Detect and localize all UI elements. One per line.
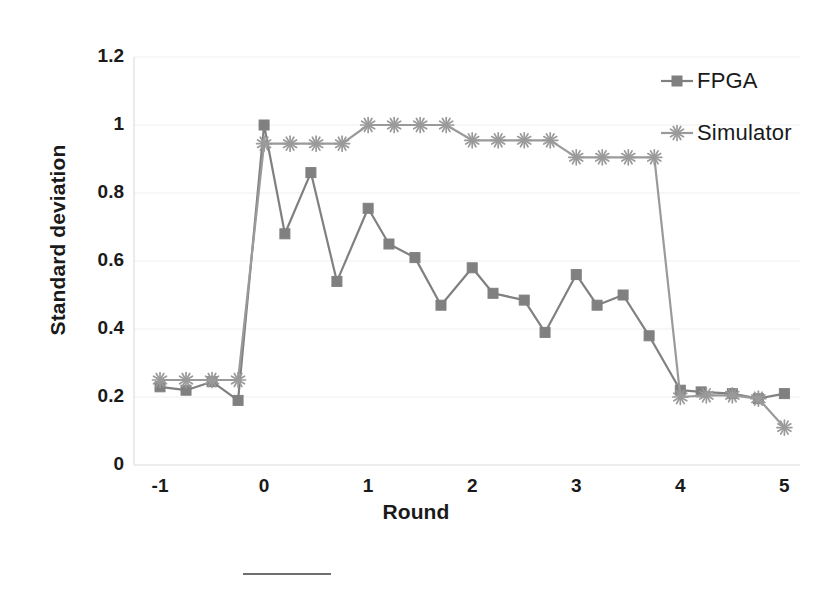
legend-asterisk-marker-icon: [660, 122, 694, 144]
legend-label: FPGA: [697, 68, 758, 94]
legend-item-fpga[interactable]: FPGA: [660, 68, 758, 94]
scan-artifact-line: [243, 573, 331, 575]
y-tick-label: 0.2: [68, 385, 124, 407]
x-tick-label: 3: [546, 475, 606, 497]
data-series-layer: [153, 118, 792, 436]
y-tick-label: 1.2: [68, 45, 124, 67]
x-tick-label: 5: [754, 475, 814, 497]
x-tick-label: 0: [234, 475, 294, 497]
x-tick-label: -1: [130, 475, 190, 497]
x-tick-label: 1: [338, 475, 398, 497]
x-tick-label: 4: [650, 475, 710, 497]
line-chart: 00.20.40.60.811.2 -1012345 Standard devi…: [0, 0, 832, 589]
legend-label: Simulator: [697, 120, 792, 146]
x-tick-label: 2: [442, 475, 502, 497]
y-tick-label: 0.6: [68, 249, 124, 271]
y-tick-label: 1: [68, 113, 124, 135]
x-axis-title: Round: [0, 500, 832, 524]
y-tick-label: 0.8: [68, 181, 124, 203]
y-tick-label: 0: [68, 453, 124, 475]
y-axis-title: Standard deviation: [46, 110, 70, 370]
y-tick-label: 0.4: [68, 317, 124, 339]
legend-square-marker-icon: [660, 70, 694, 92]
legend-item-simulator[interactable]: Simulator: [660, 120, 792, 146]
